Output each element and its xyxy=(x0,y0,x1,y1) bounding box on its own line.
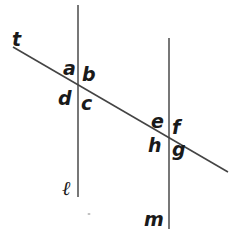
angle-label-f: f xyxy=(172,116,183,138)
angle-label-b: b xyxy=(82,63,96,85)
parallel-lines-transversal-diagram: t ℓ m a b d c e f h g xyxy=(0,0,239,246)
angle-label-g: g xyxy=(172,138,186,160)
angle-label-e: e xyxy=(151,110,164,132)
label-t: t xyxy=(12,28,22,50)
label-l: ℓ xyxy=(62,176,71,200)
angle-label-h: h xyxy=(148,134,162,156)
label-m: m xyxy=(144,208,164,230)
angle-label-a: a xyxy=(63,57,76,79)
stray-dot xyxy=(88,213,91,215)
transversal-t xyxy=(13,47,228,172)
angle-label-d: d xyxy=(58,87,72,109)
angle-label-c: c xyxy=(81,92,93,114)
